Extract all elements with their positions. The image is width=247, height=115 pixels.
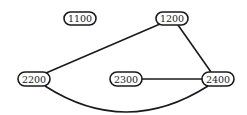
node-2400[interactable]: 2400 (202, 72, 234, 86)
node-1100-label: 1100 (68, 13, 92, 24)
edge-1200-2400 (178, 25, 211, 72)
edge-2200-2400-curved (45, 86, 208, 112)
node-2200[interactable]: 2200 (18, 72, 50, 86)
node-2200-label: 2200 (22, 74, 46, 85)
node-1200-label: 1200 (160, 13, 184, 24)
graph-diagram: 1100 1200 2200 2300 2400 (0, 0, 247, 115)
node-1100[interactable]: 1100 (64, 12, 96, 25)
edge-2200-1200 (46, 24, 160, 73)
node-1200[interactable]: 1200 (156, 12, 188, 25)
node-2300[interactable]: 2300 (110, 72, 142, 86)
node-2400-label: 2400 (206, 74, 230, 85)
node-2300-label: 2300 (114, 74, 138, 85)
